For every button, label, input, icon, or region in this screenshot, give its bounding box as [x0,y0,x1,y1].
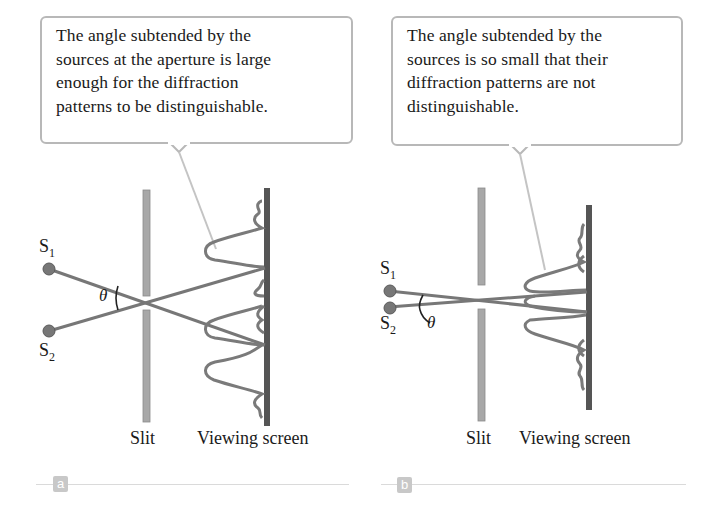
source-s1-label-a: S1 [39,236,55,257]
source-s2-label-b: S2 [380,313,396,334]
viewing-screen-label-b: Viewing screen [519,428,630,449]
viewing-screen-b [586,205,592,410]
source-s1-b [384,285,396,297]
angle-theta-label-a: θ [99,286,107,306]
source-s2-a [43,325,55,337]
viewing-screen-a [264,188,270,426]
panel-a-badge: a [53,476,68,492]
angle-theta-label-b: θ [427,313,435,333]
viewing-screen-label-a: Viewing screen [197,428,308,449]
panel-b-badge: b [397,477,412,493]
slit-barrier-b [478,188,485,421]
panel-b-rule [381,484,686,485]
slit-label-b: Slit [466,428,491,449]
source-s1-label-b: S1 [380,258,396,279]
panel-a-rule [36,484,349,485]
source-s1-a [43,263,55,275]
source-s2-label-a: S2 [39,340,55,361]
slit-barrier-a [143,190,150,422]
slit-label-a: Slit [130,428,155,449]
